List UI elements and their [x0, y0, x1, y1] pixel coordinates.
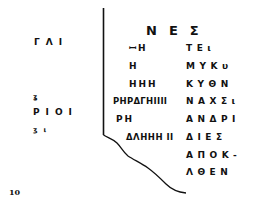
- numeral-line-5: ΡΗ: [116, 115, 134, 124]
- fragment-broken-edge: [104, 135, 187, 193]
- left-line-2: ʓ: [33, 94, 43, 101]
- left-line-1: ΓΛΙ: [34, 38, 68, 47]
- text-line-5: ΑΝΔΡΙ: [186, 115, 240, 124]
- page-number: 10: [9, 188, 20, 196]
- numeral-line-6: ΔΛΗΗΗ II: [126, 133, 174, 142]
- left-line-4: ʒι: [33, 127, 52, 134]
- text-line-3: ΚΥΘΝ: [186, 80, 233, 89]
- numeral-line-2: H: [129, 62, 139, 71]
- text-line-4: ΝΑΧΣι: [186, 97, 240, 106]
- text-line-2: ΜΥΚυ: [186, 62, 233, 71]
- numeral-line-4: ΡΗΡΔΓΗIIII: [113, 97, 167, 106]
- numeral-line-3: HHH: [129, 80, 158, 89]
- text-line-7: ΑΠΟΚ-: [186, 151, 241, 160]
- text-line-8: ΛΘΕΝ: [186, 168, 232, 177]
- inscription-heading: ΝΕΣ: [146, 24, 211, 37]
- left-line-3: ΡΙΟΙ: [33, 108, 78, 117]
- inscription-page: ΝΕΣ ΓΛΙ ʓ ΡΙΟΙ ʒι ꟷH H HHH ΡΗΡΔΓΗIIII ΡΗ…: [0, 0, 264, 209]
- text-line-6: ΔΙΕΣ: [186, 133, 227, 142]
- numeral-line-1: ꟷH: [129, 44, 148, 53]
- text-line-1: ΤΕι: [186, 44, 215, 53]
